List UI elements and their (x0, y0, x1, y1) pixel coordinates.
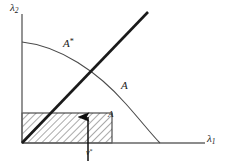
math-figure: λ2 λ1 A* A A v* (0, 0, 230, 164)
region-corner-label: A (108, 110, 114, 119)
x-axis-label: λ1 (207, 133, 216, 145)
curve-lower-label: A (121, 80, 128, 91)
curve-upper-label: A* (63, 38, 74, 49)
arrow-label: v* (86, 148, 93, 157)
y-axis-label: λ2 (10, 2, 19, 14)
figure-canvas (0, 0, 230, 164)
